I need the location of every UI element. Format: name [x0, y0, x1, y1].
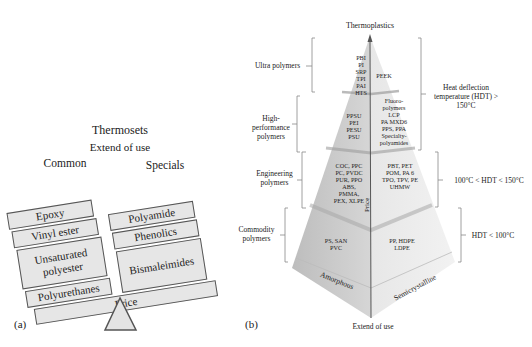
hdt-label-low: HDT < 100°C	[468, 231, 518, 240]
polymer: polyamides	[373, 140, 415, 147]
hp-semicrystalline: Fluoro- polymers LCP PA MXD6 PPS, PPA Sp…	[373, 98, 415, 147]
polymer: HTS	[354, 90, 368, 97]
commodity-semicrystalline: PP, HDPE LDPE	[382, 238, 422, 252]
ultra-semicrystalline: PEEK	[373, 73, 395, 80]
panel-b-bottom-label: Extend of use	[345, 322, 401, 331]
panel-b-tag: (b)	[245, 319, 258, 331]
tier-label-engineering: Engineering polymers	[252, 169, 297, 187]
commodity-amorphous: PS, SAN PVC	[318, 238, 354, 252]
tier-label-ultra: Ultra polymers	[250, 61, 305, 70]
hdt-label-mid: 100°C < HDT < 150°C	[445, 176, 532, 185]
tier-label-commodity: Commodity polymers	[234, 225, 279, 243]
hp-amorphous: PPSU PEI PESU PSU	[340, 113, 368, 141]
ultra-amorphous: PBI PI SRP TPI PAI HTS	[354, 55, 368, 97]
polymer: PVC	[318, 245, 354, 252]
polymer: UHMW	[375, 184, 425, 191]
eng-semicrystalline: PBT, PET POM, PA 6 TPO, TPV, PE UHMW	[375, 163, 425, 191]
hdt-label-high: Heat deflection temperature (HDT) > 150°…	[427, 83, 505, 110]
polymer: PSU	[340, 134, 368, 141]
polymer: PEEK	[373, 73, 395, 80]
tier-label-high-performance: High-performance polymers	[248, 114, 294, 141]
panel-b-title: Thermoplastics	[340, 22, 400, 31]
price-axis-label: Price	[364, 195, 372, 215]
polymer: LDPE	[382, 245, 422, 252]
